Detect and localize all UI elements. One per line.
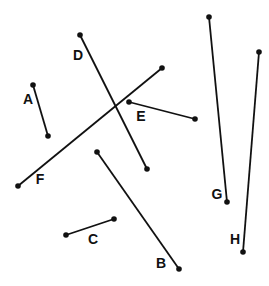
segment-label: E	[136, 108, 145, 124]
segment-line	[18, 68, 162, 186]
endpoint-dot-start	[77, 32, 83, 38]
segment-line	[209, 17, 227, 202]
endpoint-dot-end	[45, 133, 51, 139]
segment-label: A	[23, 91, 33, 107]
segment-d: D	[73, 32, 150, 172]
endpoint-dot-end	[192, 116, 198, 122]
endpoint-dot-start	[126, 99, 132, 105]
segment-g: G	[206, 14, 230, 205]
segment-b: B	[94, 149, 182, 272]
endpoint-dot-end	[240, 249, 246, 255]
segment-label: F	[36, 171, 45, 187]
segment-c: C	[63, 216, 117, 247]
endpoint-dot-start	[15, 183, 21, 189]
endpoint-dot-start	[256, 49, 262, 55]
segment-e: E	[126, 99, 198, 124]
endpoint-dot-end	[111, 216, 117, 222]
segment-label: H	[230, 231, 240, 247]
segment-line	[97, 152, 179, 269]
segment-label: G	[212, 186, 223, 202]
segment-label: B	[156, 255, 166, 271]
diagram-svg: ABCDEFGH	[0, 0, 269, 286]
segment-line	[243, 52, 259, 252]
endpoint-dot-end	[224, 199, 230, 205]
endpoint-dot-end	[144, 166, 150, 172]
endpoint-dot-start	[30, 82, 36, 88]
segment-f: F	[15, 65, 165, 189]
segment-line	[33, 85, 48, 136]
segment-label: C	[88, 231, 98, 247]
endpoint-dot-end	[159, 65, 165, 71]
segment-line	[80, 35, 147, 169]
segment-h: H	[230, 49, 262, 255]
segment-a: A	[23, 82, 51, 139]
endpoint-dot-start	[94, 149, 100, 155]
segment-label: D	[73, 47, 83, 63]
endpoint-dot-start	[206, 14, 212, 20]
endpoint-dot-start	[63, 232, 69, 238]
line-segments-diagram: ABCDEFGH	[0, 0, 269, 286]
endpoint-dot-end	[176, 266, 182, 272]
